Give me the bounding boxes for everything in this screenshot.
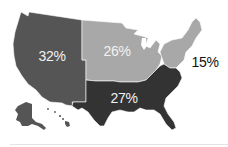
footer-divider bbox=[10, 144, 228, 145]
us-region-map bbox=[0, 0, 228, 147]
region-hawaii bbox=[47, 108, 70, 127]
region-label-south: 27% bbox=[110, 90, 137, 106]
region-label-west: 32% bbox=[38, 48, 65, 64]
region-label-northeast: 15% bbox=[191, 54, 218, 70]
region-label-midwest: 26% bbox=[103, 43, 130, 59]
region-alaska bbox=[15, 102, 46, 130]
